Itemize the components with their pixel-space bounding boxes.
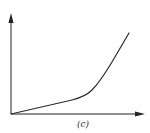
y-axis-arrow-icon <box>9 13 14 23</box>
curve-diagram <box>0 0 150 133</box>
curve-line <box>11 33 129 114</box>
x-axis-arrow-icon <box>135 112 145 117</box>
figure-caption: (c) <box>0 118 150 130</box>
